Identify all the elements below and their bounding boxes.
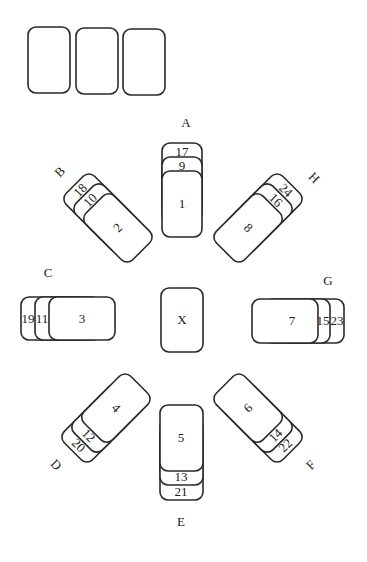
card-label-5: 5 [178, 430, 185, 445]
pile-a: A 17 9 1 [162, 115, 202, 237]
center-card: X [161, 288, 203, 352]
pile-label-g: G [323, 273, 332, 288]
pile-c: C 19 11 3 [21, 265, 115, 340]
pile-label-b: B [51, 163, 68, 180]
pile-g: G 23 15 7 [252, 273, 344, 343]
card-label-21: 21 [175, 484, 188, 499]
card-label-23: 23 [331, 313, 344, 328]
pile-label-a: A [181, 115, 191, 130]
card-label-7: 7 [289, 313, 296, 328]
center-label: X [177, 312, 187, 327]
pile-label-d: D [48, 456, 65, 473]
pile-label-f: F [303, 457, 319, 473]
top-row [28, 27, 165, 95]
blank-card-3 [123, 29, 165, 95]
card-label-3: 3 [79, 311, 86, 326]
pile-b: B 18 10 2 [51, 163, 155, 265]
pile-label-h: H [306, 169, 323, 186]
card-label-19: 19 [22, 311, 35, 326]
pile-e: 21 13 5 E [160, 405, 203, 529]
card-label-1: 1 [179, 196, 186, 211]
pile-d: D 20 12 4 [48, 371, 154, 474]
blank-card-2 [76, 28, 118, 94]
blank-card-1 [28, 27, 70, 93]
pile-h: H 24 16 8 [211, 169, 323, 265]
card-layout-diagram: A 17 9 1 B 18 10 2 H 24 16 8 C [0, 0, 367, 562]
pile-label-c: C [44, 265, 53, 280]
card-7 [252, 299, 318, 343]
pile-f: F 22 14 6 [211, 371, 319, 473]
pile-label-e: E [177, 514, 185, 529]
card-label-11: 11 [36, 311, 49, 326]
